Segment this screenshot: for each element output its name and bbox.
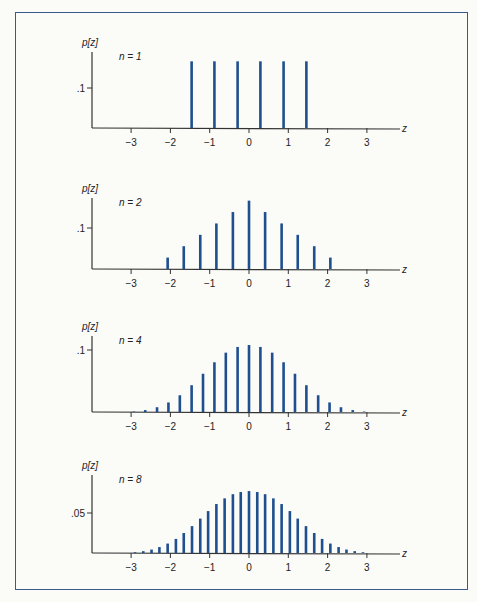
x-tick-label: −1 (204, 421, 216, 432)
panel-n-label: n = 2 (119, 197, 142, 208)
probability-bar (232, 212, 235, 269)
probability-bar (179, 395, 182, 412)
y-tick-label: .1 (77, 345, 86, 356)
x-axis-label: z (401, 123, 407, 134)
probability-bar (259, 61, 262, 128)
probability-bar (296, 519, 299, 553)
x-tick-label: 2 (325, 421, 331, 432)
probability-bar (166, 258, 169, 269)
x-tick-label: 3 (364, 562, 370, 573)
probability-bar (256, 492, 259, 553)
y-tick-label: .1 (77, 83, 86, 94)
probability-bar (213, 61, 216, 128)
probability-bar (289, 511, 292, 553)
probability-bar (215, 504, 218, 553)
y-axis-label: p[z] (81, 183, 98, 194)
x-axis-label: z (401, 264, 407, 275)
probability-bar (305, 385, 308, 412)
x-tick-label: −2 (165, 421, 177, 432)
probability-bar (353, 551, 356, 553)
x-axis (92, 128, 400, 129)
probability-bar (223, 498, 226, 553)
probability-bar (362, 552, 365, 553)
x-tick-label: 0 (246, 278, 252, 289)
probability-bar (259, 347, 262, 412)
y-axis-label: p[z] (81, 37, 98, 48)
x-axis (92, 269, 400, 270)
probability-bar (328, 402, 331, 412)
panel-n-label: n = 8 (119, 474, 142, 485)
x-axis-label: z (401, 548, 407, 559)
probability-bar (272, 498, 275, 553)
x-tick-label: 0 (246, 421, 252, 432)
probability-bar (271, 353, 274, 412)
probability-bar (150, 550, 153, 553)
probability-bar (167, 402, 170, 412)
probability-bar (175, 539, 178, 553)
x-tick-label: 3 (364, 137, 370, 148)
probability-bar (282, 61, 285, 128)
probability-bar (142, 551, 145, 553)
x-tick-label: 1 (286, 562, 292, 573)
probability-bar (158, 547, 161, 553)
x-tick-label: 2 (325, 137, 331, 148)
probability-bar (182, 533, 185, 553)
probability-bar (305, 526, 308, 553)
probability-bar (329, 544, 332, 553)
probability-bar (182, 246, 185, 269)
probability-bar (190, 61, 193, 128)
x-tick-label: 2 (325, 562, 331, 573)
probability-bar (207, 511, 210, 553)
probability-bar (321, 539, 324, 553)
probability-bar (213, 362, 216, 412)
x-tick-label: −1 (204, 562, 216, 573)
x-axis-label: z (401, 407, 407, 418)
probability-bar (280, 504, 283, 553)
x-tick-label: 0 (246, 562, 252, 573)
probability-bar (337, 547, 340, 553)
panel-n-label: n = 1 (119, 51, 142, 62)
probability-bar (296, 235, 299, 269)
probability-bar (202, 374, 205, 412)
probability-bar (191, 526, 194, 553)
probability-bar (166, 544, 169, 553)
probability-bar (351, 410, 354, 412)
x-tick-label: 3 (364, 278, 370, 289)
probability-bar (294, 374, 297, 412)
probability-bar (305, 61, 308, 128)
probability-bar (236, 347, 239, 412)
probability-bar (248, 201, 251, 269)
x-tick-label: −2 (165, 562, 177, 573)
x-axis (92, 553, 400, 554)
probability-bar (317, 395, 320, 412)
probability-bar (340, 407, 343, 412)
probability-bar (248, 491, 251, 553)
x-tick-label: 3 (364, 421, 370, 432)
probability-bar (313, 533, 316, 553)
probability-bar (156, 407, 159, 412)
probability-bar (232, 494, 235, 553)
probability-bar (144, 410, 147, 412)
x-tick-label: −2 (165, 278, 177, 289)
x-tick-label: 1 (286, 137, 292, 148)
probability-bar (134, 552, 137, 553)
probability-bar (236, 61, 239, 128)
probability-bar (345, 550, 348, 553)
chart-area: p[z]n = 1.1−3−2−10123zp[z]n = 2.1−3−2−10… (0, 0, 477, 602)
probability-bar (264, 212, 267, 269)
panel-n-label: n = 4 (119, 335, 142, 346)
y-axis-label: p[z] (81, 460, 98, 471)
y-tick-label: .1 (77, 223, 86, 234)
x-tick-label: 1 (286, 278, 292, 289)
probability-bar (264, 494, 267, 553)
probability-bar (248, 345, 251, 412)
probability-bar (280, 223, 283, 269)
probability-bar (239, 492, 242, 553)
probability-bar (215, 223, 218, 269)
x-axis (92, 412, 400, 413)
y-tick-label: .05 (71, 508, 85, 519)
probability-bar (329, 258, 332, 269)
x-tick-label: −1 (204, 137, 216, 148)
probability-bar (199, 235, 202, 269)
x-tick-label: −3 (125, 421, 137, 432)
